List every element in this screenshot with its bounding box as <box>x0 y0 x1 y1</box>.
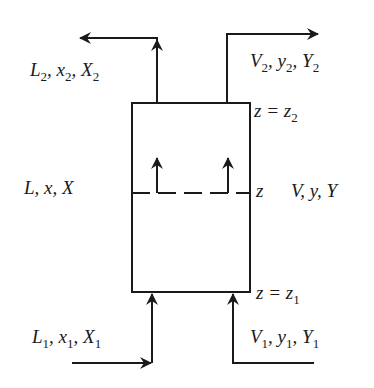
top-position-label: z = z2 <box>254 101 298 124</box>
column-box <box>132 103 250 292</box>
vapor-outlet-label: V2, y2, Y2 <box>250 51 319 74</box>
liquid-outlet-label: L2, x2, X2 <box>30 60 99 83</box>
liquid-mid-label: L, x, X <box>24 178 74 197</box>
vapor-mid-label: V, y, Y <box>291 181 337 200</box>
liquid-inlet-label: L1, x1, X1 <box>32 327 101 350</box>
vapor-inlet-label: V1, y1, Y1 <box>250 327 319 350</box>
middle-position-label: z <box>256 181 263 200</box>
bottom-position-label: z = z1 <box>256 283 300 306</box>
